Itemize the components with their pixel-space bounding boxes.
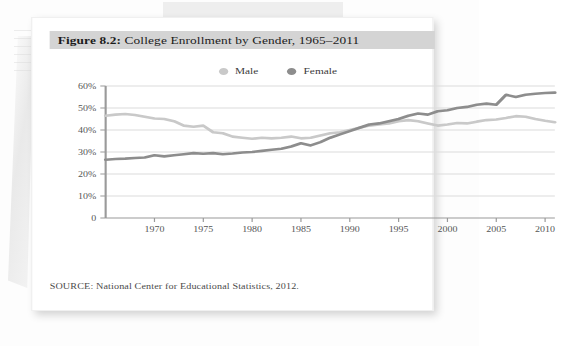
- figure-card: Figure 8.2: College Enrollment by Gender…: [31, 17, 434, 311]
- series-line-female: [106, 93, 555, 160]
- x-axis-tick-label: 2005: [486, 225, 507, 233]
- x-axis-tick-label: 1985: [291, 225, 312, 233]
- y-axis-tick-label: 10%: [78, 192, 97, 200]
- x-axis-tick-label: 2010: [535, 225, 556, 233]
- series-line-male: [106, 114, 555, 139]
- y-axis-tick-label: 50%: [78, 104, 97, 112]
- chart-plot-area: 010%20%30%40%50%60%197019751980198519901…: [32, 18, 561, 310]
- y-axis-tick-label: 0: [91, 214, 97, 222]
- figure-source: SOURCE: National Center for Educational …: [50, 282, 299, 291]
- x-axis-tick-label: 2000: [437, 225, 458, 233]
- x-axis-tick-label: 1980: [242, 225, 263, 233]
- x-axis-tick-label: 1990: [340, 225, 361, 233]
- x-axis-tick-label: 1975: [193, 225, 214, 233]
- y-axis-tick-label: 20%: [78, 170, 97, 178]
- y-axis-tick-label: 60%: [78, 82, 97, 90]
- x-axis-tick-label: 1995: [389, 225, 410, 233]
- y-axis-tick-label: 40%: [78, 126, 97, 134]
- y-axis-tick-label: 30%: [78, 148, 97, 156]
- x-axis-tick-label: 1970: [144, 225, 165, 233]
- figure-card-inner: Figure 8.2: College Enrollment by Gender…: [32, 18, 561, 310]
- line-chart-svg: 010%20%30%40%50%60%197019751980198519901…: [32, 18, 561, 310]
